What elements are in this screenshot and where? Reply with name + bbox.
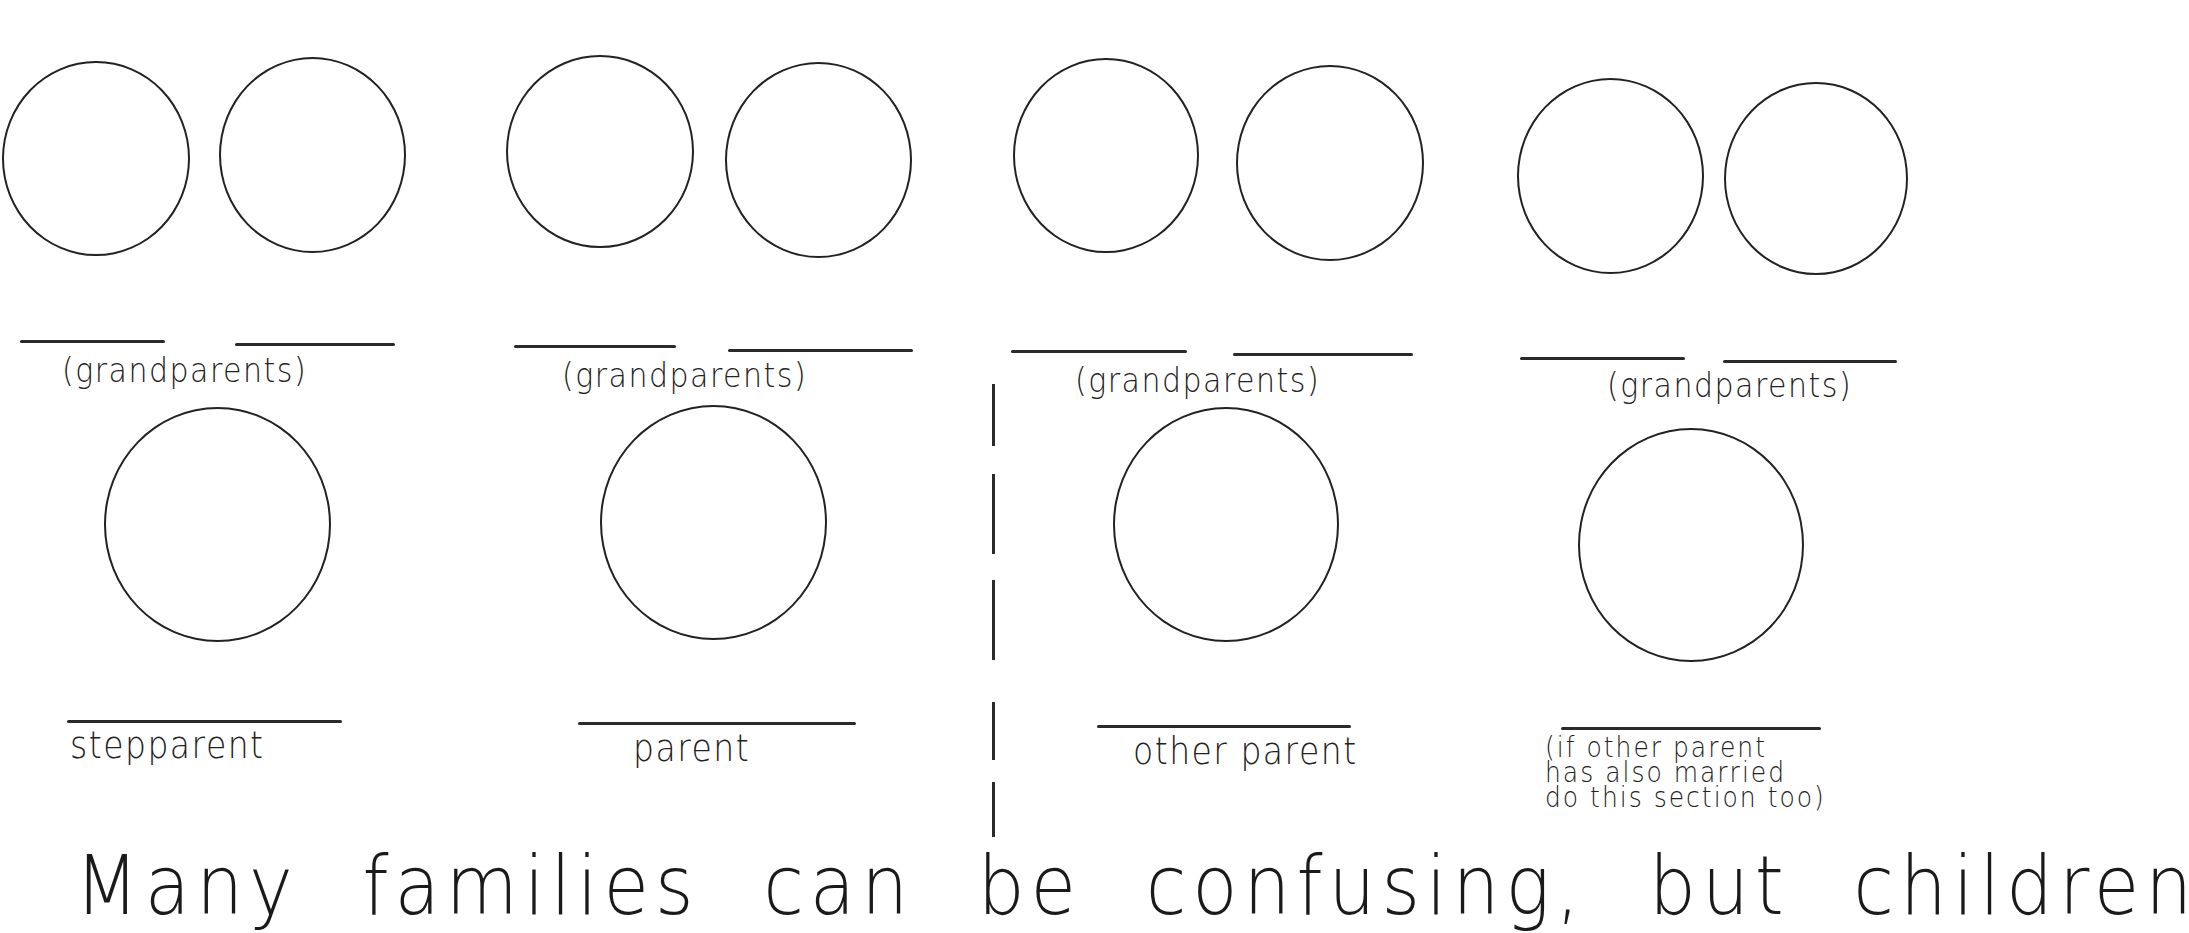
grandparent-circle <box>1236 65 1424 261</box>
grandparent-circle <box>2 61 190 256</box>
grandparent-circle <box>725 62 912 258</box>
section-divider <box>992 474 995 554</box>
grandparents-label: (grandparents) <box>1607 365 1852 405</box>
grandparent-circle <box>219 57 406 253</box>
grandparents-label: (grandparents) <box>62 350 307 390</box>
grandparent-circle <box>1013 58 1199 253</box>
grandparent-name-line[interactable] <box>1011 350 1187 353</box>
section-divider <box>992 702 995 760</box>
stepparent-label: stepparent <box>70 722 265 767</box>
grandparent-name-line[interactable] <box>235 343 395 346</box>
grandparent-name-line[interactable] <box>514 345 676 348</box>
other-parent-label: other parent <box>1133 728 1358 773</box>
grandparent-circle <box>506 55 694 248</box>
grandparents-label: (grandparents) <box>562 355 807 395</box>
stepparent-circle <box>104 407 331 642</box>
grandparents-label: (grandparents) <box>1075 360 1320 400</box>
other-parent-circle <box>1113 407 1339 642</box>
grandparent-name-line[interactable] <box>1723 360 1897 363</box>
grandparent-name-line[interactable] <box>20 340 165 343</box>
section-divider <box>992 580 995 660</box>
section-divider <box>992 384 995 446</box>
parent-circle <box>600 405 827 640</box>
other-stepparent-circle <box>1578 428 1804 662</box>
other-stepparent-instruction: (if other parent has also married do thi… <box>1545 735 1826 811</box>
headline-text: Many families can be confusing, but chil… <box>75 838 2189 933</box>
grandparent-circle <box>1724 82 1908 275</box>
section-divider <box>992 782 995 837</box>
grandparent-name-line[interactable] <box>728 349 913 352</box>
grandparent-name-line[interactable] <box>1233 353 1413 356</box>
parent-label: parent <box>633 725 750 770</box>
grandparent-circle <box>1517 78 1704 274</box>
grandparent-name-line[interactable] <box>1520 357 1685 360</box>
